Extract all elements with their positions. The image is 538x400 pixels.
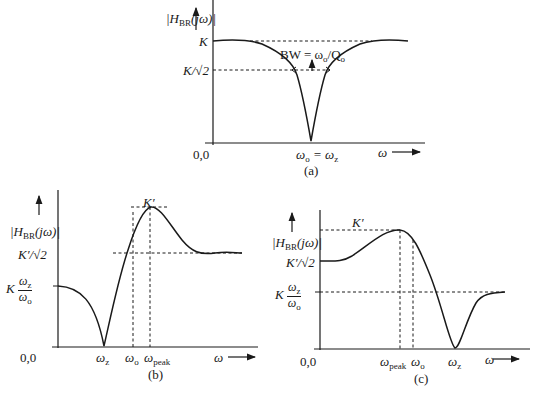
b-x-axis-label: ω [214,351,223,364]
a-tick-K-sqrt2: K/√2 [183,64,209,77]
diagram-canvas [0,0,538,400]
a-omega-o-eq-omega-z: ωo = ωz [296,148,338,164]
b-omega-peak-label: ωpeak [144,351,170,367]
figure-b [39,190,258,357]
c-caption: (c) [414,372,428,385]
c-omega-o-label: ωo [411,355,425,371]
a-x-axis-label: ω [378,146,387,159]
c-tick-low-fraction: K ωzωo [275,281,301,312]
c-origin-label: 0,0 [300,355,316,368]
a-y-axis-label: |HBR(jω)| [166,12,216,28]
c-tick-Kprime: K′ [352,216,364,229]
a-tick-K: K [199,35,208,48]
a-caption: (a) [304,164,318,177]
a-origin-label: 0,0 [193,148,209,161]
c-y-axis-label: |HBR(jω)| [272,236,322,252]
c-omega-peak-label: ωpeak [380,355,406,371]
figure-c [292,210,530,359]
b-omega-z-label: ωz [96,351,109,367]
b-omega-o-label: ωo [125,351,139,367]
b-y-axis-label: |HBR(jω)| [10,225,60,241]
b-tick-low-fraction: K ωzωo [6,275,32,306]
c-omega-z-label: ωz [448,355,461,371]
a-bandwidth-label: BW = ωo/Qo [280,48,345,64]
c-tick-Kprime-sqrt2: K′/√2 [286,256,315,269]
c-x-axis-label: ω [485,353,494,366]
b-tick-Kprime-sqrt2: K′/√2 [18,248,47,261]
b-tick-Kprime: K′ [143,196,155,209]
b-caption: (b) [148,368,163,381]
b-origin-label: 0,0 [20,351,36,364]
figure-a [196,0,425,152]
